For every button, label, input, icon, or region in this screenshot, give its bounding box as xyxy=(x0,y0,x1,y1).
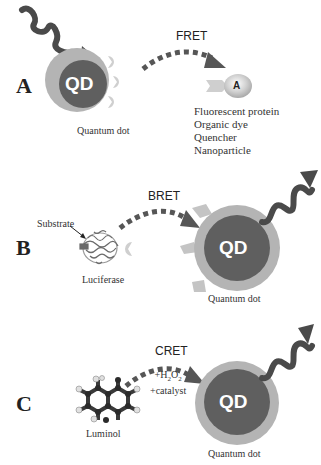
reagent-catalyst: +catalyst xyxy=(150,385,186,396)
qd-caption-b: Quantum dot xyxy=(208,293,261,304)
substrate-pointer-arrowhead-icon xyxy=(80,233,86,239)
emission-wave-b-icon xyxy=(262,187,312,222)
panel-letter-a: A xyxy=(16,73,32,99)
fret-arrowhead-icon xyxy=(204,52,226,68)
fret-transfer-arrow-icon xyxy=(143,52,212,69)
energy-transfer-diagram: A QD Quantum dot FRET A Fluorescent prot… xyxy=(0,0,321,465)
qd-caption-a: Quantum dot xyxy=(77,125,130,136)
ligand-icons xyxy=(108,56,119,108)
luciferase-ligand-icon xyxy=(125,242,132,256)
emission-wave-c-icon xyxy=(262,343,312,378)
method-label-fret: FRET xyxy=(176,29,207,43)
qd-label-c: QD xyxy=(219,391,248,413)
panel-c-graphics xyxy=(76,324,314,445)
qd-label-b: QD xyxy=(219,237,248,259)
luminol-caption: Luminol xyxy=(86,428,120,439)
method-label-bret: BRET xyxy=(148,189,180,203)
qd-label-a: QD xyxy=(65,73,94,95)
acceptor-label: A xyxy=(233,80,240,91)
acceptor-type-item: Quencher xyxy=(194,131,279,144)
substrate-label: Substrate xyxy=(37,218,74,229)
reagents-label: +H2O2 +catalyst xyxy=(150,369,186,396)
bret-transfer-arrow-icon xyxy=(120,211,185,228)
panel-letter-b: B xyxy=(16,235,31,261)
acceptor-type-item: Fluorescent protein xyxy=(194,105,279,118)
panel-letter-c: C xyxy=(16,391,32,417)
luminol-molecule-icon xyxy=(76,376,140,424)
luciferase-caption: Luciferase xyxy=(82,274,124,285)
luciferase-protein-icon xyxy=(80,231,118,264)
acceptor-type-item: Nanoparticle xyxy=(194,144,279,157)
panel-a-graphics xyxy=(22,9,252,112)
acceptor-type-item: Organic dye xyxy=(194,118,279,131)
acceptor-types-list: Fluorescent protein Organic dye Quencher… xyxy=(194,105,279,157)
method-label-cret: CRET xyxy=(155,344,188,358)
reagent-h2o2: +H2O2 xyxy=(155,369,182,380)
qd-caption-c: Quantum dot xyxy=(208,448,261,459)
